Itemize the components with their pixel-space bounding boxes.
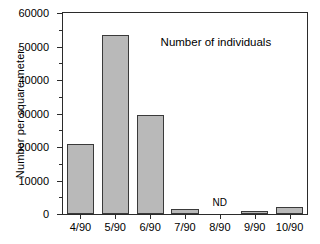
x-tick: [255, 214, 256, 219]
y-tick-label: 40000: [18, 75, 49, 86]
x-tick: [80, 214, 81, 219]
x-tick: [150, 214, 151, 219]
y-tick-major: 0: [57, 214, 63, 215]
x-tick: [220, 214, 221, 219]
x-tick: [185, 214, 186, 219]
x-tick: [290, 214, 291, 219]
bar: [276, 207, 303, 214]
bar: [241, 211, 268, 214]
x-tick-label: 5/90: [105, 222, 126, 233]
x-tick: [115, 214, 116, 219]
chart-annotation: Number of individuals: [161, 36, 272, 48]
x-tick-label: 8/90: [209, 222, 230, 233]
x-tick-label: 10/90: [276, 222, 304, 233]
y-tick-label: 60000: [18, 8, 49, 19]
bar: [102, 35, 129, 214]
bar: [67, 144, 94, 214]
y-tick-label: 10000: [18, 175, 49, 186]
bar: [171, 209, 198, 214]
y-tick-label: 20000: [18, 142, 49, 153]
x-tick-label: 4/90: [70, 222, 91, 233]
x-tick-label: 9/90: [244, 222, 265, 233]
bar-chart-figure: Number per square meter 0100002000030000…: [0, 0, 320, 244]
bar: [137, 115, 164, 214]
x-tick-label: 7/90: [174, 222, 195, 233]
y-tick-label: 50000: [18, 41, 49, 52]
x-tick-label: 6/90: [139, 222, 160, 233]
no-data-marker: ND: [213, 197, 227, 208]
y-tick-label: 30000: [18, 108, 49, 119]
y-tick-label: 0: [43, 209, 49, 220]
plot-area: 0100002000030000400005000060000 4/905/90…: [62, 12, 308, 215]
